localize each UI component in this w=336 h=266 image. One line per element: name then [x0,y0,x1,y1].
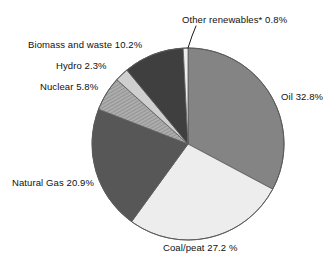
slice-label-hydro: Hydro 2.3% [56,60,107,72]
pie-slices-group [92,48,284,240]
slice-label-biomass-and-waste: Biomass and waste 10.2% [28,39,142,51]
other-renewables-leader-line [188,26,196,48]
slice-label-nuclear: Nuclear 5.8% [40,81,98,93]
slice-label-natural-gas: Natural Gas 20.9% [12,177,94,189]
slice-label-oil: Oil 32.8% [281,91,323,103]
slice-label-coal-peat: Coal/peat 27.2 % [163,242,237,254]
slice-label-other-renewables: Other renewables* 0.8% [182,14,287,26]
pie-chart-figure: Oil 32.8% Coal/peat 27.2 % Natural Gas 2… [0,0,336,266]
